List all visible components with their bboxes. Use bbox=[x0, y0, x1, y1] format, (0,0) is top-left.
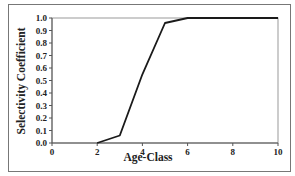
y-tick-label: 0.7 bbox=[36, 51, 48, 61]
y-tick-label: 0.1 bbox=[36, 126, 48, 136]
y-tick-label: 0.6 bbox=[36, 63, 48, 73]
selectivity-chart: 0.00.10.20.30.40.50.60.70.80.91.0 024681… bbox=[0, 0, 295, 176]
plot-area bbox=[52, 18, 278, 143]
y-tick-label: 0.8 bbox=[36, 38, 48, 48]
y-axis-title: Selectivity Coefficient bbox=[15, 27, 28, 134]
y-tick-label: 1.0 bbox=[36, 13, 48, 23]
y-ticks: 0.00.10.20.30.40.50.60.70.80.91.0 bbox=[36, 13, 52, 148]
y-tick-label: 0.5 bbox=[36, 76, 48, 86]
y-tick-label: 0.9 bbox=[36, 26, 48, 36]
y-tick-label: 0.4 bbox=[36, 88, 48, 98]
x-tick-label: 0 bbox=[50, 147, 55, 157]
x-tick-label: 10 bbox=[274, 147, 284, 157]
y-tick-label: 0.0 bbox=[36, 138, 48, 148]
y-tick-label: 0.2 bbox=[36, 113, 48, 123]
x-tick-label: 2 bbox=[95, 147, 100, 157]
x-axis-title: Age-Class bbox=[123, 151, 173, 164]
x-tick-label: 6 bbox=[185, 147, 190, 157]
selectivity-line bbox=[97, 18, 278, 143]
y-tick-label: 0.3 bbox=[36, 101, 48, 111]
x-tick-label: 8 bbox=[231, 147, 236, 157]
